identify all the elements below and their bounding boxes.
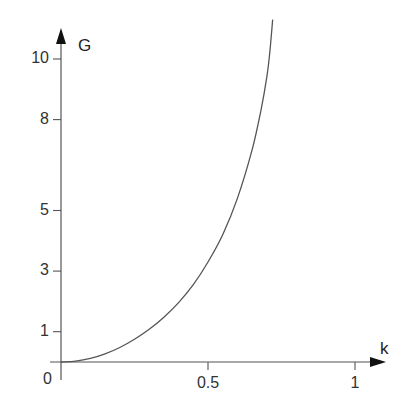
g-curve	[61, 20, 273, 362]
y-tick-label: 10	[31, 50, 49, 66]
x-tick-label: 1	[351, 375, 360, 391]
y-tick-label: 8	[40, 111, 49, 127]
y-axis-label: G	[78, 37, 91, 54]
chart-canvas	[0, 0, 413, 411]
y-tick-label: 1	[40, 323, 49, 339]
y-axis-arrow-icon	[56, 28, 66, 44]
x-axis-label: k	[380, 340, 389, 357]
x-tick-label: 0.5	[197, 375, 219, 391]
y-tick-label: 5	[40, 202, 49, 218]
x-axis-arrow-icon	[370, 357, 386, 367]
origin-label: 0	[43, 371, 52, 387]
axes	[50, 28, 386, 380]
ticks	[53, 59, 355, 370]
y-tick-label: 3	[40, 262, 49, 278]
